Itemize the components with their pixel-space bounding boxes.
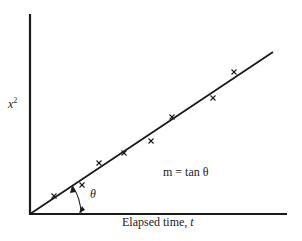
plot-canvas bbox=[0, 0, 302, 241]
x-axis-label: Elapsed time, t bbox=[122, 215, 194, 230]
arc-arrowhead-bottom-icon bbox=[79, 206, 85, 213]
diagram-figure: x2 Elapsed time, t θ m = tan θ bbox=[0, 0, 302, 241]
data-point-x-mark-icon bbox=[80, 183, 85, 188]
data-point-x-mark-icon bbox=[211, 96, 216, 101]
slope-equation: m = tan θ bbox=[163, 165, 209, 180]
y-axis-label: x2 bbox=[8, 96, 17, 112]
angle-label: θ bbox=[90, 187, 96, 202]
x-axis-label-text: Elapsed time, bbox=[122, 215, 190, 229]
data-point-x-mark-icon bbox=[149, 139, 154, 144]
data-point-x-mark-icon bbox=[232, 70, 237, 75]
x-axis-variable: t bbox=[190, 215, 193, 229]
data-points bbox=[52, 70, 237, 199]
data-point-x-mark-icon bbox=[97, 161, 102, 166]
y-axis-exponent: 2 bbox=[13, 96, 17, 105]
best-fit-line bbox=[30, 52, 273, 214]
